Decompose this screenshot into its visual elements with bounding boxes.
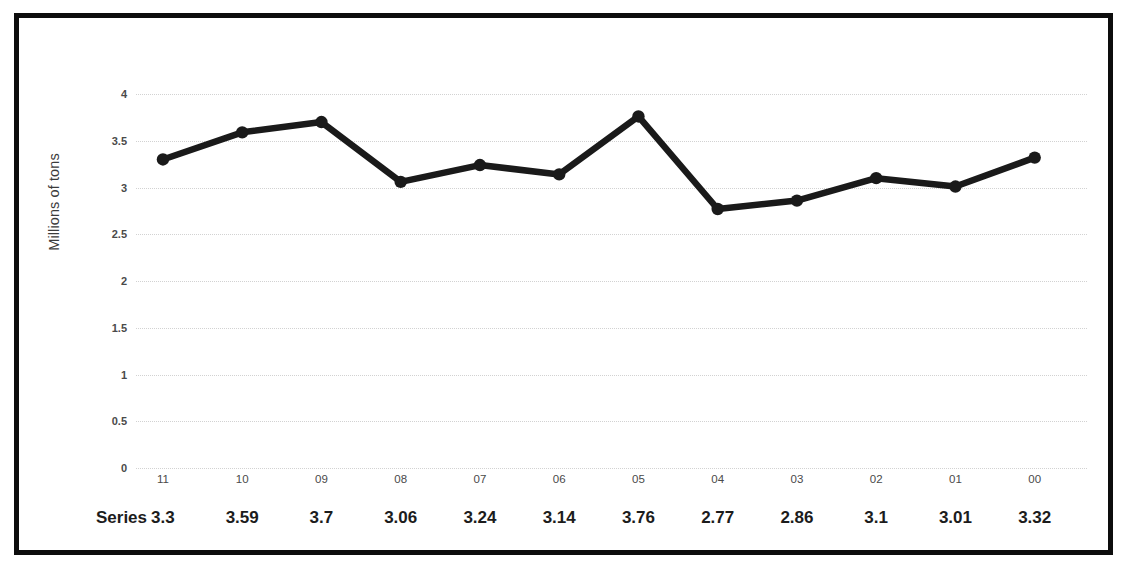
data-table-cell: 3.32 [1018,505,1051,531]
line-series-plot [136,94,1087,468]
data-point-marker [394,176,406,188]
y-axis-tick-label: 3.5 [112,135,127,147]
y-axis-tick-label: 0.5 [112,415,127,427]
x-axis-tick-label: 03 [791,473,804,485]
data-table-cell: 3.76 [622,505,655,531]
data-table-cell: 3.3 [151,505,175,531]
data-point-marker [1028,151,1040,163]
series-line [163,116,1035,209]
y-axis-tick-label: 1.5 [112,322,127,334]
data-point-marker [711,203,723,215]
x-axis-tick-label: 08 [394,473,407,485]
x-axis-tick-label: 04 [711,473,724,485]
x-axis-tick-label: 11 [157,473,169,485]
y-axis-title: Millions of tons [46,122,62,282]
y-axis-tick-label: 3 [121,182,127,194]
data-point-marker [236,126,248,138]
y-axis-tick-label: 0 [121,462,127,474]
data-point-marker [157,153,169,165]
data-table-cell: 3.14 [543,505,576,531]
data-point-marker [632,110,644,122]
data-table-cell: 3.1 [864,505,888,531]
x-axis-tick-label: 06 [553,473,566,485]
x-axis-tick-label: 10 [236,473,249,485]
y-axis-tick-label: 4 [121,88,127,100]
data-table-cell: 3.06 [384,505,417,531]
data-table-cell: 3.59 [226,505,259,531]
data-point-marker [553,168,565,180]
y-axis-tick-label: 2 [121,275,127,287]
x-axis-tick-labels: 111009080706050403020100 [136,473,1087,495]
plot-area: 00.511.522.533.54 [136,94,1087,468]
data-point-marker [949,180,961,192]
y-axis-tick-label: 1 [121,369,127,381]
x-axis-tick-label: 09 [315,473,328,485]
chart-stage: Millions of tons 00.511.522.533.54 11100… [19,18,1108,550]
data-table-cell: 3.24 [463,505,496,531]
x-axis-tick-label: 05 [632,473,645,485]
data-table: Series 3.33.593.73.063.243.143.762.772.8… [74,505,1087,539]
x-axis-tick-label: 07 [474,473,487,485]
data-table-cell: 2.77 [701,505,734,531]
data-point-marker [474,159,486,171]
x-axis-tick-label: 00 [1028,473,1041,485]
data-table-cell: 3.01 [939,505,972,531]
data-point-marker [315,116,327,128]
data-point-marker [791,194,803,206]
data-point-marker [870,172,882,184]
y-axis-tick-label: 2.5 [112,228,127,240]
data-table-cell: 3.7 [310,505,334,531]
x-axis-tick-label: 01 [949,473,962,485]
chart-frame: Millions of tons 00.511.522.533.54 11100… [14,13,1113,555]
gridline [136,468,1087,469]
data-table-cell: 2.86 [780,505,813,531]
x-axis-tick-label: 02 [870,473,883,485]
